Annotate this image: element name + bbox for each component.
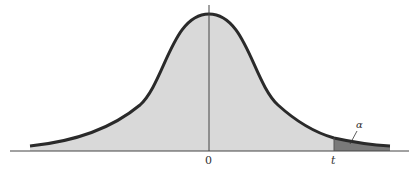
zero-label: 0 — [205, 155, 212, 166]
distribution-diagram — [0, 0, 420, 170]
curve-body-area — [30, 14, 334, 151]
alpha-label: α — [356, 120, 363, 130]
t-label: t — [331, 155, 335, 166]
